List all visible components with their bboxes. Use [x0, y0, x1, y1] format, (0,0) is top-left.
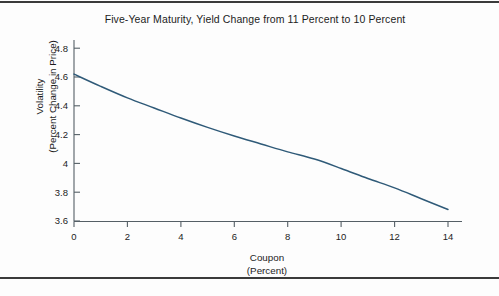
- x-axis-ticks: [74, 222, 448, 228]
- x-tick-label: 8: [285, 231, 290, 242]
- x-axis-label-line1: Coupon: [74, 252, 460, 265]
- volatility-curve: [74, 74, 448, 209]
- x-tick-label: 10: [336, 231, 347, 242]
- x-tick-label: 12: [389, 231, 400, 242]
- x-tick-label: 4: [178, 231, 183, 242]
- y-axis-label: Volatility (Percent Change in Price): [34, 17, 59, 177]
- x-axis-label-line2: (Percent): [74, 265, 460, 278]
- figure-canvas: Five-Year Maturity, Yield Change from 11…: [0, 0, 499, 296]
- y-tick-label: 4: [63, 158, 68, 169]
- y-tick-label: 3.8: [55, 187, 68, 198]
- y-axis-label-line2: (Percent Change in Price): [46, 17, 59, 177]
- y-axis-label-line1: Volatility: [34, 17, 47, 177]
- bottom-divider-rule: [0, 277, 499, 279]
- x-tick-label: 14: [443, 231, 454, 242]
- x-tick-label: 6: [232, 231, 237, 242]
- y-tick-label: 3.6: [55, 215, 68, 226]
- x-tick-label: 0: [71, 231, 76, 242]
- x-axis-label: Coupon (Percent): [74, 252, 460, 277]
- x-axis-tick-labels: 0 2 4 6 8 10 12 14: [71, 231, 453, 242]
- x-tick-label: 2: [125, 231, 130, 242]
